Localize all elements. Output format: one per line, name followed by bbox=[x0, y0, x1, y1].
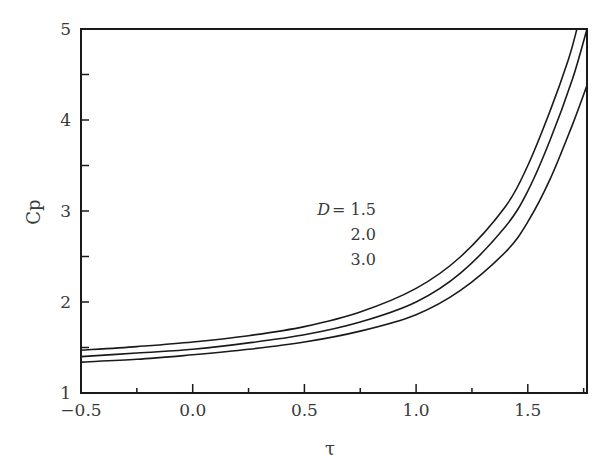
x-axis-ticks bbox=[137, 384, 584, 393]
x-tick-label: 0.5 bbox=[291, 400, 318, 420]
plot-curves bbox=[81, 29, 587, 362]
x-tick-label: 0.0 bbox=[179, 400, 206, 420]
annotation-second-value: 2.0 bbox=[351, 225, 376, 244]
series-line-1-5 bbox=[81, 29, 577, 350]
y-axis-ticks bbox=[81, 75, 89, 348]
y-axis-tick-labels: 12345 bbox=[60, 19, 71, 403]
chart: −0.50.00.51.01.5 12345 τ Cp D= 1.5 2.0 3… bbox=[0, 0, 616, 473]
svg-text:D= 1.5: D= 1.5 bbox=[316, 200, 376, 219]
x-axis-label: τ bbox=[325, 438, 335, 459]
series-line-3-0 bbox=[81, 85, 587, 362]
y-tick-label: 2 bbox=[60, 292, 71, 312]
annotation-variable: D bbox=[316, 200, 330, 219]
series-annotation: D= 1.5 2.0 3.0 bbox=[316, 200, 376, 269]
x-tick-label: 1.5 bbox=[514, 400, 541, 420]
y-tick-label: 1 bbox=[60, 383, 71, 403]
x-tick-label: 1.0 bbox=[403, 400, 430, 420]
y-tick-label: 5 bbox=[60, 19, 71, 39]
series-line-2-0 bbox=[81, 29, 587, 357]
y-tick-label: 4 bbox=[60, 110, 71, 130]
x-axis-tick-labels: −0.50.00.51.01.5 bbox=[60, 400, 541, 420]
x-tick-label: −0.5 bbox=[60, 400, 101, 420]
y-axis-label: Cp bbox=[23, 199, 44, 224]
annotation-third-value: 3.0 bbox=[351, 250, 376, 269]
annotation-first-value: = 1.5 bbox=[332, 200, 376, 219]
y-tick-label: 3 bbox=[60, 201, 71, 221]
